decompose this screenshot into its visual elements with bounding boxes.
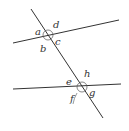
angle-label-a: a [35, 26, 41, 37]
angle-diagram: a d b c e h f g [0, 0, 129, 131]
angle-label-f: f [69, 93, 76, 104]
angle-label-g: g [89, 87, 95, 98]
angle-label-b: b [40, 43, 46, 54]
upper-line [13, 20, 119, 43]
angle-label-d: d [53, 19, 59, 30]
angle-label-c: c [55, 36, 61, 47]
angle-label-h: h [84, 68, 90, 79]
angle-label-e: e [66, 76, 72, 87]
